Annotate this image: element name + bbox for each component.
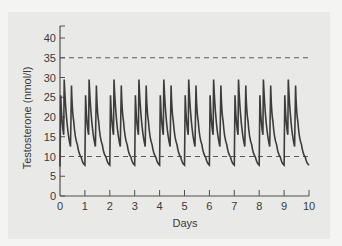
x-axis-title: Days	[172, 217, 198, 229]
y-tick-label: 30	[44, 72, 56, 84]
y-tick-label: 15	[44, 131, 56, 143]
testosterone-series	[60, 80, 309, 167]
x-tick-label: 6	[206, 200, 212, 212]
x-tick-label: 8	[256, 200, 262, 212]
line-chart: 0510152025303540012345678910 Days Testos…	[0, 0, 342, 246]
y-tick-label: 0	[50, 190, 56, 202]
testosterone-line	[60, 80, 309, 167]
y-tick-label: 20	[44, 111, 56, 123]
axes: 0510152025303540012345678910	[44, 26, 315, 212]
y-tick-label: 25	[44, 91, 56, 103]
x-tick-label: 9	[281, 200, 287, 212]
y-tick-label: 40	[44, 32, 56, 44]
x-tick-label: 5	[181, 200, 187, 212]
y-tick-label: 35	[44, 52, 56, 64]
x-tick-label: 2	[107, 200, 113, 212]
x-tick-label: 1	[82, 200, 88, 212]
x-tick-label: 7	[231, 200, 237, 212]
x-tick-label: 3	[132, 200, 138, 212]
y-axis-title: Testosterone (nmol/l)	[21, 67, 33, 170]
x-tick-label: 10	[303, 200, 315, 212]
y-tick-label: 5	[50, 170, 56, 182]
x-tick-label: 4	[157, 200, 163, 212]
x-tick-label: 0	[57, 200, 63, 212]
y-tick-label: 10	[44, 151, 56, 163]
